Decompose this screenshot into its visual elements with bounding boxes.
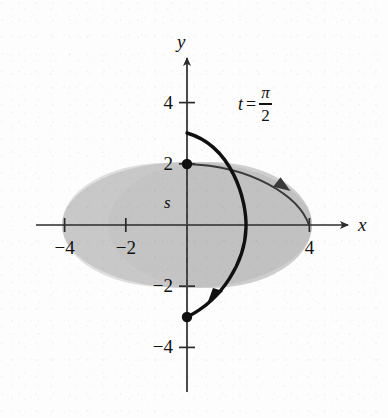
y-tick-label-3: −4 (153, 337, 173, 356)
x-tick-label-0: −4 (54, 238, 74, 257)
fraction-bar (259, 103, 272, 105)
equals-sign: = (246, 95, 256, 113)
fraction-numerator: π (259, 84, 272, 101)
y-tick-label-2: −2 (153, 276, 173, 295)
y-axis-label: y (177, 32, 185, 51)
y-tick-label-0: 4 (164, 93, 174, 112)
coordinate-plot (0, 0, 388, 418)
x-tick-label-1: −2 (116, 238, 136, 257)
x-axis-label: x (358, 215, 366, 234)
axes-group (36, 58, 348, 392)
fraction: π 2 (259, 84, 272, 124)
x-tick-label-2: 4 (305, 238, 315, 257)
parameter-symbol: t (238, 95, 243, 113)
point-bottom (182, 312, 192, 322)
y-tick-label-1: 2 (164, 154, 174, 173)
fraction-denominator: 2 (259, 107, 272, 124)
figure-canvas: −4−2442−2−4 t = π 2 s x y (0, 0, 388, 418)
parameter-label: t = π 2 (238, 84, 272, 124)
segment-label: s (164, 194, 171, 211)
bold-curve-arrowhead (206, 288, 223, 307)
point-top (182, 159, 192, 169)
